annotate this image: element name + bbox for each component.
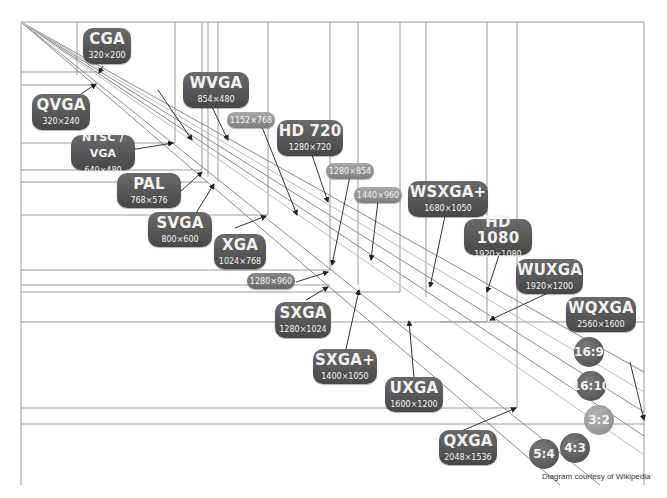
standard-xga: XGA 1024×768 — [214, 234, 266, 269]
standard-qxga: QXGA 2048×1536 — [439, 430, 497, 465]
standard-svga: SVGA 800×600 — [148, 212, 212, 247]
standard-cga: CGA 320×200 — [83, 28, 131, 64]
standard-hd1080: HD 1080 1920×1080 — [464, 219, 532, 255]
resolution-1280x960: 1280×960 — [247, 273, 295, 289]
standard-resolution: 1680×1050 — [424, 203, 471, 214]
standard-ntsc-vga: NTSC / VGA 640×480 — [71, 135, 135, 170]
standard-name: WUXGA — [517, 262, 582, 278]
standard-pal: PAL 768×576 — [117, 173, 181, 208]
standard-name: WVGA — [190, 75, 243, 91]
standard-resolution: 800×600 — [161, 234, 198, 245]
standard-resolution: 768×576 — [130, 195, 167, 206]
standard-name: SXGA+ — [315, 352, 375, 368]
standard-resolution: 854×480 — [197, 94, 234, 105]
standard-resolution: 1280×720 — [289, 142, 331, 153]
aspect-ratio-16-10: 16:10 — [576, 371, 606, 401]
credit-text: Diagram courtesy of Wikipedia — [542, 472, 650, 481]
standard-resolution: 2560×1600 — [577, 319, 624, 330]
standard-resolution: 2048×1536 — [444, 452, 491, 463]
resolution-label: 1152×768 — [230, 115, 272, 126]
standard-resolution: 1600×1200 — [390, 399, 437, 410]
resolution-label: 1280×854 — [329, 166, 371, 177]
standard-resolution: 320×240 — [42, 116, 79, 127]
aspect-ratio-4-3: 4:3 — [560, 433, 590, 463]
aspect-ratio-3-2: 3:2 — [584, 405, 614, 435]
standard-name: UXGA — [390, 380, 438, 396]
resolution-1152x768: 1152×768 — [227, 112, 275, 128]
standard-resolution: 640×480 — [84, 165, 121, 176]
resolution-1440x960: 1440×960 — [354, 187, 402, 203]
resolution-1280x854: 1280×854 — [326, 163, 374, 179]
standard-wqxga: WQXGA 2560×1600 — [566, 297, 636, 332]
standard-resolution: 1920×1080 — [474, 249, 521, 260]
standard-wsxga-plus: WSXGA+ 1680×1050 — [408, 181, 488, 217]
standard-name: WQXGA — [568, 300, 634, 316]
standard-sxga-plus: SXGA+ 1400×1050 — [313, 349, 377, 384]
standard-name: QVGA — [36, 97, 85, 113]
standard-resolution: 1024×768 — [219, 256, 261, 267]
standard-wuxga: WUXGA 1920×1200 — [516, 259, 583, 294]
standard-name: WSXGA+ — [410, 184, 487, 200]
resolution-diagram: CGA 320×200 QVGA 320×240 WVGA 854×480 NT… — [0, 0, 667, 498]
standard-name: XGA — [222, 237, 258, 253]
standard-name: CGA — [89, 31, 125, 47]
resolution-label: 1280×960 — [250, 276, 292, 287]
standard-name: QXGA — [443, 433, 492, 449]
standard-resolution: 1400×1050 — [321, 371, 368, 382]
standard-name: HD 720 — [279, 123, 342, 139]
standard-name: SXGA — [279, 305, 326, 321]
standard-name: HD 1080 — [464, 214, 532, 246]
standard-sxga: SXGA 1280×1024 — [275, 302, 331, 338]
standard-hd720: HD 720 1280×720 — [277, 120, 343, 156]
standard-resolution: 320×200 — [88, 50, 125, 61]
standard-name: SVGA — [156, 215, 203, 231]
standard-name: NTSC / VGA — [71, 130, 135, 162]
aspect-ratio-16-9: 16:9 — [574, 337, 604, 367]
standard-wvga: WVGA 854×480 — [183, 72, 249, 108]
standard-resolution: 1920×1200 — [526, 281, 573, 292]
standard-name: PAL — [133, 176, 164, 192]
resolution-label: 1440×960 — [357, 190, 399, 201]
standard-uxga: UXGA 1600×1200 — [385, 377, 443, 412]
standard-qvga: QVGA 320×240 — [32, 94, 90, 130]
aspect-ratio-5-4: 5:4 — [529, 439, 559, 469]
diagram-lines — [0, 0, 667, 498]
standard-resolution: 1280×1024 — [279, 324, 326, 335]
